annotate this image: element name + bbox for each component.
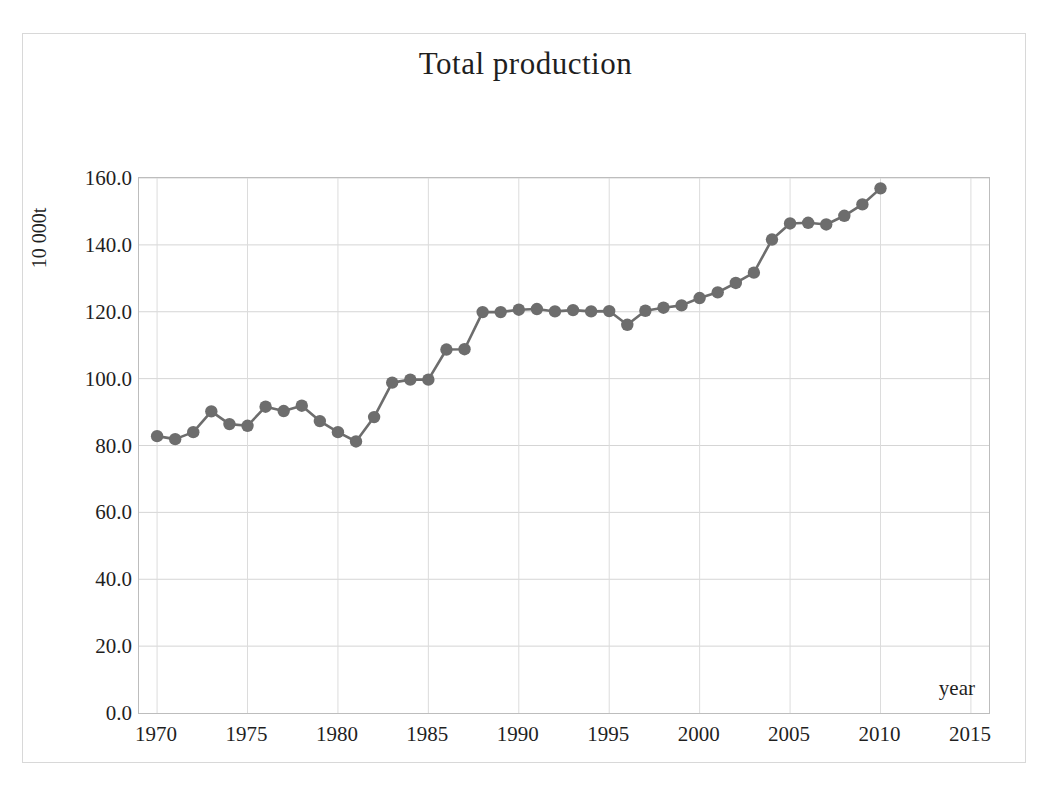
data-point bbox=[657, 302, 669, 314]
data-point bbox=[151, 430, 163, 442]
data-point bbox=[693, 292, 705, 304]
x-tick-label: 1980 bbox=[292, 722, 382, 747]
data-point bbox=[495, 306, 507, 318]
data-point bbox=[549, 305, 561, 317]
data-point bbox=[368, 411, 380, 423]
data-point bbox=[187, 426, 199, 438]
y-tick-label: 80.0 bbox=[48, 434, 132, 459]
data-point bbox=[223, 418, 235, 430]
x-tick-label: 1975 bbox=[202, 722, 292, 747]
x-tick-label: 2000 bbox=[654, 722, 744, 747]
data-point bbox=[404, 373, 416, 385]
data-point bbox=[476, 306, 488, 318]
y-tick-label: 120.0 bbox=[48, 300, 132, 325]
data-point bbox=[639, 305, 651, 317]
data-point bbox=[675, 299, 687, 311]
y-tick-label: 40.0 bbox=[48, 567, 132, 592]
data-point bbox=[603, 305, 615, 317]
x-tick-label: 2015 bbox=[925, 722, 1015, 747]
x-tick-label: 2010 bbox=[834, 722, 924, 747]
data-point bbox=[874, 182, 886, 194]
data-point bbox=[838, 210, 850, 222]
data-point bbox=[585, 305, 597, 317]
data-point bbox=[332, 426, 344, 438]
line-chart-svg bbox=[139, 178, 989, 713]
data-point bbox=[277, 405, 289, 417]
data-point bbox=[748, 266, 760, 278]
data-point bbox=[350, 435, 362, 447]
y-tick-label: 20.0 bbox=[48, 634, 132, 659]
page-title: Total production bbox=[0, 46, 1051, 82]
y-tick-label: 140.0 bbox=[48, 233, 132, 258]
data-point bbox=[241, 420, 253, 432]
data-point bbox=[458, 343, 470, 355]
data-point bbox=[259, 401, 271, 413]
x-axis-ticks: 1970197519801985199019952000200520102015 bbox=[138, 722, 990, 756]
y-tick-label: 60.0 bbox=[48, 500, 132, 525]
data-point bbox=[567, 304, 579, 316]
data-point bbox=[169, 433, 181, 445]
data-point bbox=[730, 277, 742, 289]
y-axis-ticks: 0.020.040.060.080.0100.0120.0140.0160.0 bbox=[36, 177, 132, 714]
x-tick-label: 2005 bbox=[744, 722, 834, 747]
data-point bbox=[440, 343, 452, 355]
data-point bbox=[531, 303, 543, 315]
data-point bbox=[712, 286, 724, 298]
x-tick-label: 1990 bbox=[473, 722, 563, 747]
data-point bbox=[314, 415, 326, 427]
data-point bbox=[386, 376, 398, 388]
x-tick-label: 1985 bbox=[382, 722, 472, 747]
chart-figure: Total production 10 000t 0.020.040.060.0… bbox=[0, 0, 1051, 793]
data-point bbox=[296, 400, 308, 412]
x-tick-label: 1970 bbox=[111, 722, 201, 747]
plot-area: year bbox=[138, 177, 990, 714]
y-tick-label: 160.0 bbox=[48, 166, 132, 191]
data-point bbox=[820, 218, 832, 230]
y-tick-label: 100.0 bbox=[48, 367, 132, 392]
data-point bbox=[422, 373, 434, 385]
x-tick-label: 1995 bbox=[563, 722, 653, 747]
data-point bbox=[621, 319, 633, 331]
x-axis-title: year bbox=[939, 676, 975, 701]
data-point bbox=[802, 217, 814, 229]
data-point bbox=[205, 405, 217, 417]
data-point bbox=[513, 304, 525, 316]
data-point bbox=[766, 233, 778, 245]
data-point bbox=[784, 217, 796, 229]
data-point bbox=[856, 198, 868, 210]
